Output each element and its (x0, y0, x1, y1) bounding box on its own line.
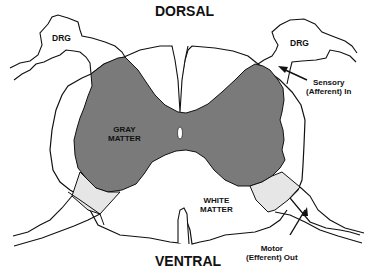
motor-label-line1: Motor (246, 244, 298, 253)
sensory-arrowhead-icon (278, 66, 288, 73)
gray-matter-label-line1: GRAY (108, 125, 141, 134)
ventral-label: VENTRAL (155, 253, 221, 269)
motor-label-line2: (Efferent) Out (246, 253, 298, 262)
sensory-label-line1: Sensory (306, 78, 351, 87)
sensory-afferent-label: Sensory (Afferent) In (306, 78, 351, 96)
white-matter-label-line1: WHITE (200, 196, 233, 205)
right-ventral-root-upper (300, 187, 364, 233)
ventral-median-fissure (178, 208, 189, 244)
drg-left-label: DRG (52, 34, 71, 44)
dorsal-median-sulcus (172, 46, 188, 112)
white-matter-label: WHITE MATTER (200, 196, 233, 214)
sensory-label-line2: (Afferent) In (306, 87, 351, 96)
central-canal (178, 127, 183, 139)
left-dorsal-root-lower (14, 50, 91, 80)
motor-arrow (290, 210, 305, 235)
gray-matter-label-line2: MATTER (108, 134, 141, 143)
dorsal-label: DORSAL (155, 3, 214, 19)
gray-matter-label: GRAY MATTER (108, 125, 141, 143)
motor-arrowhead-icon (302, 207, 308, 216)
left-ventral-root-lower (14, 214, 100, 246)
white-matter-label-line2: MATTER (200, 205, 233, 214)
right-ventral-root-lower (275, 212, 362, 243)
motor-efferent-label: Motor (Efferent) Out (246, 244, 298, 262)
drg-right-label: DRG (290, 39, 309, 49)
